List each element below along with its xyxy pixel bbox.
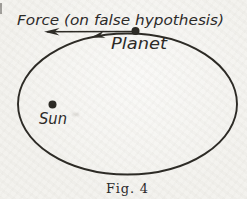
- sun-label: Sun: [39, 110, 67, 128]
- scanned-figure-page: Force (on false hypothesis) Planet Sun F…: [0, 0, 247, 199]
- scan-smudge: [72, 113, 79, 116]
- planet-label: Planet: [111, 35, 168, 53]
- planet-dot: [132, 27, 140, 35]
- figure-caption: Fig. 4: [106, 181, 148, 196]
- sun-dot: [49, 101, 57, 109]
- scan-smudge: [0, 3, 2, 14]
- figure-canvas: Force (on false hypothesis) Planet Sun F…: [0, 0, 247, 199]
- force-label: Force (on false hypothesis): [17, 12, 224, 28]
